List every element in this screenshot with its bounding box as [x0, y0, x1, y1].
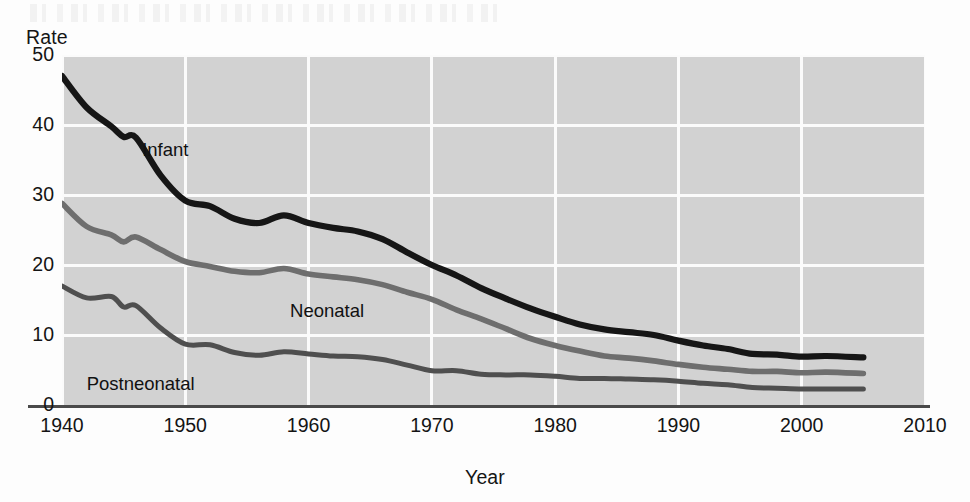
x-tick-2010: 2010 [880, 416, 970, 436]
x-tick-1990: 1990 [633, 416, 723, 436]
series-label-infant: Infant [142, 141, 188, 160]
series-label-neonatal: Neonatal [290, 302, 364, 321]
x-tick-1960: 1960 [264, 416, 354, 436]
series-lines [62, 55, 925, 405]
y-tick-10: 10 [8, 325, 54, 345]
y-tick-40: 40 [8, 115, 54, 135]
y-tick-30: 30 [8, 185, 54, 205]
x-tick-1940: 1940 [17, 416, 107, 436]
y-tick-50: 50 [8, 45, 54, 65]
x-tick-1970: 1970 [387, 416, 477, 436]
series-label-postneonatal: Postneonatal [87, 375, 195, 394]
x-tick-2000: 2000 [757, 416, 847, 436]
y-tick-0: 0 [8, 395, 54, 415]
chart-figure: Rate 01020304050 19401950196019701980199… [0, 0, 970, 502]
series-line-neonatal [62, 203, 863, 373]
y-tick-20: 20 [8, 255, 54, 275]
scan-bleedthrough-artifact [30, 4, 500, 22]
series-line-infant [62, 76, 863, 357]
x-tick-1950: 1950 [140, 416, 230, 436]
x-tick-1980: 1980 [510, 416, 600, 436]
x-axis-line [28, 405, 930, 408]
plot-area [62, 55, 925, 405]
x-axis-title: Year [0, 466, 970, 489]
